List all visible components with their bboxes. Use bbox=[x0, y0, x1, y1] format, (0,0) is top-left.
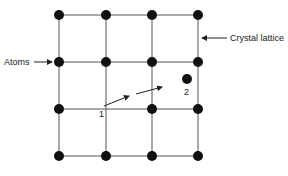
atom bbox=[193, 10, 203, 20]
atom bbox=[193, 151, 203, 161]
atom bbox=[101, 57, 111, 67]
atom bbox=[147, 10, 157, 20]
arrow-icon bbox=[104, 96, 129, 106]
atom bbox=[54, 104, 64, 114]
atom bbox=[54, 151, 64, 161]
atoms-label: Atoms bbox=[4, 57, 30, 67]
lattice-grid-lines bbox=[59, 15, 198, 156]
diffusion-arrows bbox=[104, 87, 162, 106]
interstitial-atom bbox=[182, 74, 192, 84]
position-2-label: 2 bbox=[184, 87, 189, 97]
atom bbox=[147, 151, 157, 161]
atom bbox=[147, 57, 157, 67]
atom bbox=[147, 104, 157, 114]
atom bbox=[101, 10, 111, 20]
atom bbox=[54, 10, 64, 20]
atom bbox=[101, 151, 111, 161]
position-1-label: 1 bbox=[99, 109, 104, 119]
arrow-icon bbox=[136, 87, 162, 94]
atom bbox=[193, 104, 203, 114]
atom bbox=[54, 57, 64, 67]
crystal-lattice-diagram: Atoms Crystal lattice 1 2 bbox=[0, 0, 288, 176]
crystal-lattice-label: Crystal lattice bbox=[230, 33, 284, 43]
lattice-atoms bbox=[54, 10, 203, 161]
atom bbox=[193, 57, 203, 67]
